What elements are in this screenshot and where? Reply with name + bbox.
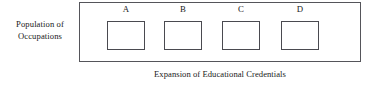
occupation-box-b (164, 21, 202, 50)
column-caption-c: C (222, 4, 260, 15)
population-label-line-2: Occupations (4, 31, 76, 43)
column-caption-a: A (107, 4, 145, 15)
occupation-box-c (222, 21, 260, 50)
population-label-line-1: Population of (4, 19, 76, 31)
expansion-label-text: Expansion of Educational Credentials (148, 68, 292, 81)
expansion-of-educational-credentials-label: Expansion of Educational Credentials (79, 68, 361, 81)
column-caption-b: B (164, 4, 202, 15)
credential-expansion-diagram: Population of Occupations A B C D Expans… (0, 0, 380, 88)
population-of-occupations-label: Population of Occupations (4, 19, 76, 42)
column-caption-d: D (281, 4, 319, 15)
occupation-box-d (281, 21, 319, 50)
occupation-box-a (107, 21, 145, 50)
